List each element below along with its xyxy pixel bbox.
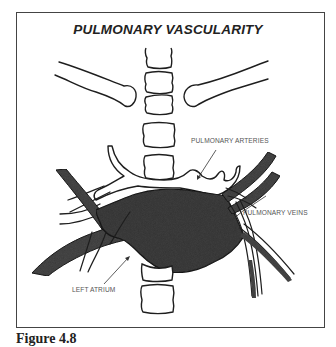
pulmonary-arteries-leader [198, 150, 216, 178]
lower-vertebrae [141, 264, 174, 314]
right-clavicle [184, 61, 268, 107]
label-pulmonary-veins: PULMONARY VEINS [243, 209, 308, 216]
label-left-atrium: LEFT ATRIUM [72, 286, 115, 293]
left-clavicle [55, 62, 136, 107]
left-atrium-leader [104, 258, 128, 284]
right-lower-vein-dark [240, 232, 292, 298]
figure-caption: Figure 4.8 [16, 331, 76, 347]
vertebrae [143, 48, 175, 180]
label-pulmonary-arteries: PULMONARY ARTERIES [191, 137, 269, 144]
